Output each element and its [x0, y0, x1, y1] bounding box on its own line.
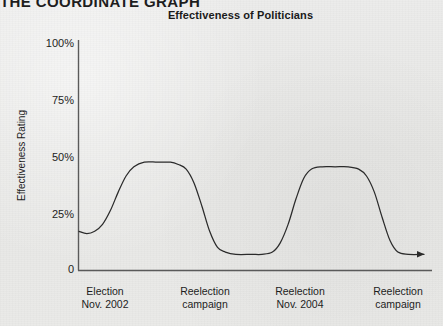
- x-tick-0-line1: Election: [86, 285, 123, 297]
- x-tick-3-line2: campaign: [338, 298, 443, 311]
- x-tick-3: Reelection campaign: [338, 285, 443, 311]
- x-tick-2-line1: Reelection: [275, 285, 325, 297]
- x-tick-1-line1: Reelection: [180, 285, 230, 297]
- data-curve: [79, 162, 424, 255]
- x-tick-3-line1: Reelection: [373, 285, 423, 297]
- chart-plot-area: [0, 0, 443, 326]
